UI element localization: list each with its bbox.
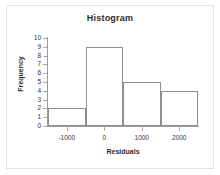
y-axis-title: Frequency (17, 44, 25, 104)
x-tick-mark (179, 127, 180, 131)
x-tick-label: 2000 (159, 134, 199, 141)
x-tick-label: 0 (84, 134, 124, 141)
histogram-bar (161, 91, 199, 126)
y-tick-label: 2 (17, 105, 41, 112)
y-tick-label: 1 (17, 114, 41, 121)
x-tick-mark (104, 127, 105, 131)
y-tick-mark (43, 108, 47, 109)
y-tick-mark (43, 47, 47, 48)
x-tick-label: 1000 (122, 134, 162, 141)
y-tick-mark (43, 56, 47, 57)
x-tick-label: -1000 (47, 134, 87, 141)
y-tick-mark (43, 73, 47, 74)
y-tick-label: 10 (17, 35, 41, 42)
histogram-screenshot: Histogram 012345678910 -1000010002000 Re… (0, 0, 220, 175)
y-tick-mark (43, 64, 47, 65)
y-tick-mark (43, 100, 47, 101)
y-tick-mark (43, 38, 47, 39)
x-tick-mark (142, 127, 143, 131)
histogram-bar (123, 82, 161, 126)
chart-title: Histogram (0, 13, 220, 23)
y-tick-mark (43, 91, 47, 92)
y-tick-mark (43, 117, 47, 118)
y-tick-mark (43, 82, 47, 83)
x-axis-title: Residuals (48, 148, 198, 156)
y-tick-mark (43, 126, 47, 127)
histogram-bar (48, 108, 86, 126)
x-axis-line (47, 126, 199, 127)
x-tick-mark (67, 127, 68, 131)
histogram-bar (86, 47, 124, 126)
y-tick-label: 0 (17, 123, 41, 130)
